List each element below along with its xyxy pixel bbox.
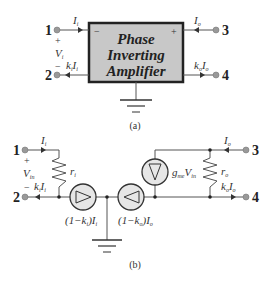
terminal-4-node <box>213 72 219 78</box>
arrow-left-icon <box>224 147 229 153</box>
arrow-right-icon <box>78 27 83 33</box>
junction-dot <box>208 195 212 199</box>
current-source-right-icon <box>118 184 144 210</box>
current-in-label: Ii <box>40 134 47 147</box>
arrow-right-icon <box>231 194 236 200</box>
junction-dot <box>57 195 61 199</box>
minus-sign: − <box>55 61 61 72</box>
terminal-3-node <box>243 147 249 153</box>
ki-ii-label: kiIi <box>66 59 78 72</box>
arrow-left-icon <box>35 194 40 200</box>
plus-sign: + <box>55 35 61 46</box>
diagram-b: 1 2 3 4 Ii Io + Vin − kiIi ri ro gmeVin … <box>13 134 259 271</box>
resistor-ro-icon <box>203 158 217 187</box>
arrow-right-icon <box>200 72 205 78</box>
terminal-1-label: 1 <box>13 143 20 158</box>
caption-b: (b) <box>129 259 141 271</box>
ground-icon <box>92 240 122 252</box>
arrow-left-icon <box>65 72 70 78</box>
terminal-1-node <box>54 27 60 33</box>
junction-dot <box>208 148 212 152</box>
caption-a: (a) <box>129 120 140 132</box>
ki-ii-label: kiIi <box>34 180 46 193</box>
terminal-2-label: 2 <box>13 190 20 205</box>
minus-sign: − <box>24 182 30 193</box>
current-out-label: Io <box>193 14 201 27</box>
box-label-line1: Phase <box>117 31 155 47</box>
terminal-1-label: 1 <box>45 23 52 38</box>
terminal-4-node <box>243 194 249 200</box>
current-in-label: Ii <box>72 14 79 27</box>
ko-io-label: koIo <box>221 180 236 193</box>
resistor-ri-icon <box>52 158 66 187</box>
terminal-2-label: 2 <box>45 68 52 83</box>
voltage-in-label: Vin <box>23 167 34 180</box>
diagram-a: Phase Inverting Amplifier − + 1 2 3 4 Ii… <box>45 14 229 132</box>
junction-dot <box>153 195 157 199</box>
ri-label: ri <box>70 165 76 178</box>
terminal-3-label: 3 <box>222 23 229 38</box>
box-plus-sign: + <box>171 26 177 37</box>
ro-label: ro <box>221 165 228 178</box>
circuit-figure: Phase Inverting Amplifier − + 1 2 3 4 Ii… <box>0 0 270 282</box>
junction-dot <box>105 195 109 199</box>
terminal-2-node <box>54 72 60 78</box>
terminal-2-node <box>22 194 28 200</box>
terminal-4-label: 4 <box>252 190 259 205</box>
gm-vin-label: gmeVin <box>172 166 196 179</box>
box-label-line3: Amplifier <box>105 63 165 79</box>
ground-icon <box>120 82 152 112</box>
source-right-label: (1−ko)Io <box>118 214 153 227</box>
current-source-gm-icon <box>142 159 168 185</box>
current-out-label: Io <box>223 134 231 147</box>
box-label-line2: Inverting <box>106 47 165 63</box>
arrow-right-icon <box>41 147 46 153</box>
current-source-left-icon <box>70 184 96 210</box>
terminal-3-node <box>213 27 219 33</box>
voltage-label: Vi <box>55 47 64 60</box>
terminal-4-label: 4 <box>222 68 229 83</box>
plus-sign: + <box>24 155 30 166</box>
terminal-1-node <box>22 147 28 153</box>
source-left-label: (1−ki)Ii <box>65 214 97 227</box>
ko-io-label: koIo <box>194 59 209 72</box>
box-minus-sign: − <box>94 26 100 37</box>
terminal-3-label: 3 <box>252 143 259 158</box>
arrow-left-icon <box>194 27 199 33</box>
